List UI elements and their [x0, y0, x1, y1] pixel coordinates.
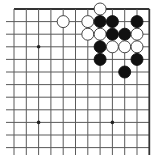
white-stone[interactable]: [119, 41, 131, 53]
white-stone[interactable]: [131, 28, 143, 40]
black-stone[interactable]: [94, 41, 106, 53]
black-stone[interactable]: [119, 66, 131, 78]
black-stone[interactable]: [94, 53, 106, 65]
white-stone[interactable]: [131, 41, 143, 53]
star-point-icon: [37, 45, 41, 49]
go-board[interactable]: [0, 0, 153, 155]
white-stone[interactable]: [82, 16, 94, 28]
black-stone[interactable]: [131, 16, 143, 28]
black-stone[interactable]: [94, 16, 106, 28]
white-stone[interactable]: [82, 28, 94, 40]
black-stone[interactable]: [119, 28, 131, 40]
black-stone[interactable]: [131, 53, 143, 65]
star-point-icon: [37, 121, 41, 125]
white-stone[interactable]: [94, 3, 106, 15]
white-stone[interactable]: [106, 41, 118, 53]
black-stone[interactable]: [106, 28, 118, 40]
star-point-icon: [111, 121, 115, 125]
white-stone[interactable]: [57, 16, 69, 28]
black-stone[interactable]: [106, 16, 118, 28]
white-stone[interactable]: [94, 28, 106, 40]
